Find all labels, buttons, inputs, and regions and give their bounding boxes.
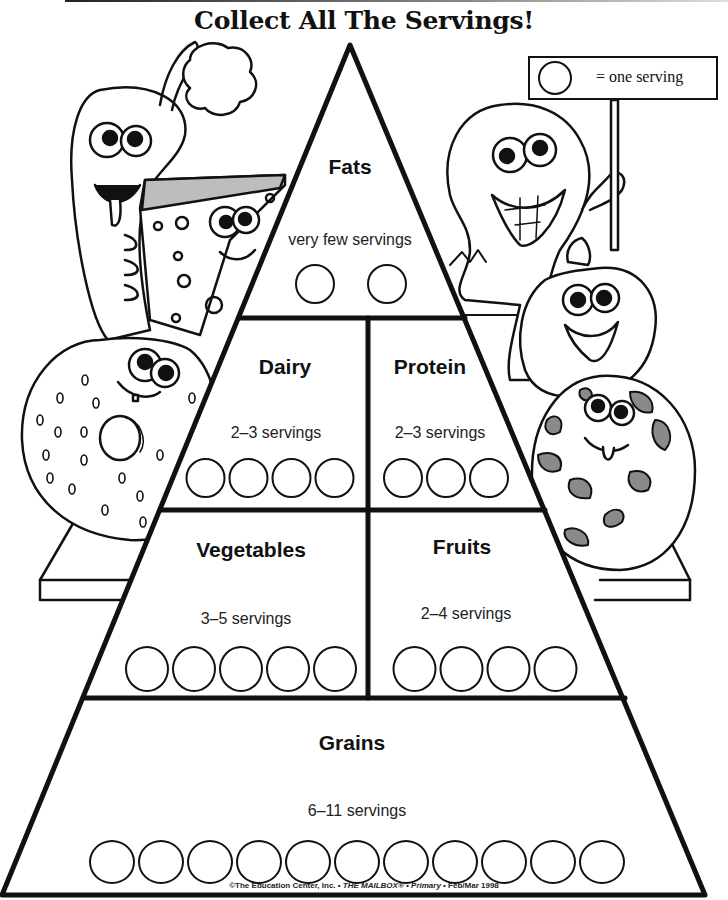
serving-circle-icon — [272, 458, 312, 498]
serving-circle-icon — [383, 840, 429, 884]
tier-name: Fats — [328, 155, 371, 179]
serving-circle-icon — [172, 646, 216, 692]
tier-count: 3–5 servings — [201, 610, 292, 628]
serving-circle-icon — [393, 646, 437, 692]
serving-circle-icon — [487, 646, 531, 692]
tier-count: 2–3 servings — [231, 424, 322, 442]
tier-name: Dairy — [259, 355, 312, 379]
serving-circle-icon — [367, 264, 407, 304]
serving-circle-icon — [295, 264, 335, 304]
serving-circle-icon — [383, 458, 423, 498]
tier-name: Vegetables — [196, 538, 306, 562]
serving-circles — [393, 646, 578, 692]
serving-circle-icon — [469, 458, 509, 498]
legend-sign: = one serving — [528, 56, 718, 100]
serving-circle-icon — [187, 840, 233, 884]
serving-circles — [125, 646, 357, 692]
serving-circle-icon — [266, 646, 310, 692]
serving-circle-icon — [186, 458, 226, 498]
serving-circles — [89, 840, 625, 884]
serving-circle-icon — [125, 646, 169, 692]
copyright-footer: ©The Education Center, Inc. • THE MAILBO… — [0, 881, 728, 890]
serving-circle-icon — [426, 458, 466, 498]
tier-count: 2–3 servings — [395, 424, 486, 442]
serving-circle-icon — [334, 840, 380, 884]
tier-count: very few servings — [288, 231, 412, 249]
tier-name: Grains — [319, 731, 386, 755]
serving-circle-icon — [432, 840, 478, 884]
serving-circle-icon — [315, 458, 355, 498]
tier-name: Protein — [394, 355, 466, 379]
serving-circles — [295, 264, 407, 304]
serving-circle-icon — [285, 840, 331, 884]
legend-text: = one serving — [596, 68, 683, 86]
serving-circle-icon — [138, 840, 184, 884]
serving-circle-icon — [440, 646, 484, 692]
tier-count: 2–4 servings — [421, 605, 512, 623]
footer-issue: • Feb/Mar 1998 — [441, 881, 499, 890]
serving-circle-icon — [481, 840, 527, 884]
tier-name: Fruits — [433, 535, 491, 559]
tier-count: 6–11 servings — [308, 802, 406, 820]
serving-circle-icon — [579, 840, 625, 884]
serving-circle-icon — [530, 840, 576, 884]
illustration — [0, 0, 728, 900]
serving-circle-icon — [313, 646, 357, 692]
serving-circle-icon — [534, 646, 578, 692]
serving-circles — [186, 458, 355, 498]
serving-circle-icon — [89, 840, 135, 884]
serving-circle-icon — [236, 840, 282, 884]
serving-circle-icon — [229, 458, 269, 498]
footer-magazine: THE MAILBOX® • Primary — [343, 881, 441, 890]
serving-circle-icon — [219, 646, 263, 692]
serving-circles — [383, 458, 509, 498]
circle-icon — [538, 61, 572, 95]
footer-publisher: ©The Education Center, Inc. • — [229, 881, 343, 890]
